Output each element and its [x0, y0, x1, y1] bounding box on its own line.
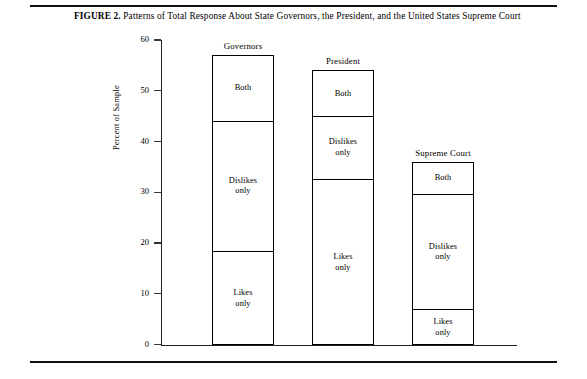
bar-segment: Likesonly	[313, 180, 373, 346]
bar-segment-label: Both	[435, 173, 452, 184]
bar-category-label: Supreme Court	[372, 148, 514, 158]
bar-category-label: Governors	[172, 41, 314, 51]
y-axis-tick	[154, 141, 161, 142]
bar-segment-label: Likesonly	[433, 317, 452, 338]
bar-segment: Dislikesonly	[213, 122, 273, 252]
y-axis-tick-label: 50	[115, 85, 149, 95]
bar-segment: Likesonly	[413, 310, 473, 346]
bottom-rule	[30, 361, 557, 363]
bar-segment: Dislikesonly	[313, 117, 373, 179]
y-axis-line	[161, 40, 162, 346]
y-axis-tick	[154, 90, 161, 91]
bar-segment-label: Dislikesonly	[329, 137, 357, 158]
bar-segment-label: Likesonly	[333, 252, 352, 273]
bar-segment: Both	[313, 71, 373, 117]
bar-category-label: President	[272, 56, 414, 66]
chart-plot-area: Percent of Sample 0102030405060BothDisli…	[0, 0, 587, 360]
bar-segment-label: Both	[335, 89, 352, 100]
bar-segment-label: Likesonly	[233, 288, 252, 309]
y-axis-tick	[154, 192, 161, 193]
bar-segment-label: Dislikesonly	[429, 242, 457, 263]
y-axis-tick-label: 60	[115, 34, 149, 44]
bar-segment: Likesonly	[213, 252, 273, 346]
y-axis-tick-label: 30	[115, 186, 149, 196]
y-axis-tick	[154, 293, 161, 294]
bar-president[interactable]: BothDislikesonlyLikesonly	[312, 70, 374, 344]
figure-container: FIGURE 2. Patterns of Total Response Abo…	[0, 0, 587, 379]
y-axis-tick	[154, 242, 161, 243]
bar-segment: Both	[213, 56, 273, 122]
bar-supreme-court[interactable]: BothDislikesonlyLikesonly	[412, 162, 474, 345]
y-axis-tick	[154, 39, 161, 40]
y-axis-tick-label: 40	[115, 136, 149, 146]
bar-segment: Both	[413, 163, 473, 195]
y-axis-tick-label: 0	[115, 339, 149, 349]
bar-governors[interactable]: BothDislikesonlyLikesonly	[212, 55, 274, 345]
y-axis-tick-label: 10	[115, 288, 149, 298]
bar-segment-label: Dislikesonly	[229, 176, 257, 197]
bar-segment-label: Both	[235, 83, 252, 94]
bar-segment: Dislikesonly	[413, 195, 473, 310]
y-axis-tick-label: 20	[115, 237, 149, 247]
y-axis-tick	[154, 344, 161, 345]
